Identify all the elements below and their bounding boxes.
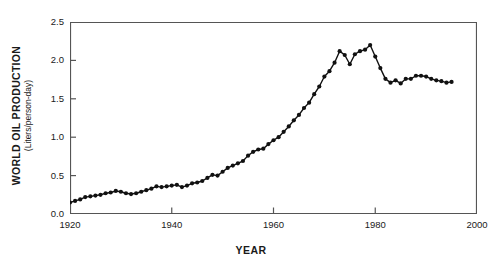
data-point bbox=[287, 124, 291, 128]
data-point bbox=[358, 49, 362, 53]
data-point bbox=[414, 74, 418, 78]
data-point bbox=[149, 187, 153, 191]
data-point bbox=[114, 189, 118, 193]
y-axis-title-main: WORLD OIL PRODUCTION bbox=[11, 45, 23, 184]
data-point bbox=[388, 81, 392, 85]
data-point bbox=[419, 74, 423, 78]
data-point bbox=[165, 184, 169, 188]
data-point bbox=[221, 170, 225, 174]
data-point bbox=[297, 113, 301, 117]
x-axis-tick-label: 2000 bbox=[466, 220, 487, 230]
y-axis-tick-label: 2.0 bbox=[38, 55, 64, 65]
data-point bbox=[205, 176, 209, 180]
data-point bbox=[144, 188, 148, 192]
data-point bbox=[134, 191, 138, 195]
data-point bbox=[312, 92, 316, 96]
x-axis-tick-label: 1960 bbox=[263, 220, 284, 230]
y-axis-tick-label: 0.0 bbox=[38, 209, 64, 219]
data-point bbox=[251, 150, 255, 154]
y-axis-tick-label: 0.5 bbox=[38, 171, 64, 181]
data-point bbox=[261, 147, 265, 151]
chart-figure: WORLD OIL PRODUCTION (Liters/person-day)… bbox=[0, 0, 502, 274]
data-point bbox=[246, 154, 250, 158]
data-point bbox=[170, 183, 174, 187]
data-point bbox=[180, 185, 184, 189]
data-point bbox=[383, 77, 387, 81]
data-point bbox=[394, 78, 398, 82]
data-point bbox=[276, 135, 280, 139]
data-point bbox=[292, 118, 296, 122]
data-plot bbox=[70, 22, 477, 214]
x-axis-tick-labels: 19201940196019802000 bbox=[0, 220, 502, 234]
data-point bbox=[159, 185, 163, 189]
data-point bbox=[429, 77, 433, 81]
data-point bbox=[190, 181, 194, 185]
data-point bbox=[226, 166, 230, 170]
data-point bbox=[98, 193, 102, 197]
data-point bbox=[282, 130, 286, 134]
series-line bbox=[70, 45, 452, 202]
data-point bbox=[129, 192, 133, 196]
data-point bbox=[449, 80, 453, 84]
data-point bbox=[175, 183, 179, 187]
data-point bbox=[343, 53, 347, 57]
data-point bbox=[119, 190, 123, 194]
data-point bbox=[424, 74, 428, 78]
data-point bbox=[332, 61, 336, 65]
data-point bbox=[266, 142, 270, 146]
y-axis-tick-label: 2.5 bbox=[38, 17, 64, 27]
data-point bbox=[154, 184, 158, 188]
x-axis-title: YEAR bbox=[0, 244, 502, 256]
data-point bbox=[409, 77, 413, 81]
data-point bbox=[307, 101, 311, 105]
plot-frame bbox=[71, 23, 477, 214]
data-point bbox=[353, 52, 357, 56]
data-point bbox=[256, 147, 260, 151]
data-point bbox=[104, 191, 108, 195]
y-axis-tick-label: 1.5 bbox=[38, 94, 64, 104]
data-point bbox=[236, 161, 240, 165]
data-point bbox=[70, 200, 72, 204]
plot-area bbox=[70, 22, 477, 214]
data-point bbox=[109, 190, 113, 194]
data-point bbox=[139, 190, 143, 194]
data-point bbox=[215, 174, 219, 178]
data-point bbox=[439, 79, 443, 83]
data-point bbox=[195, 180, 199, 184]
x-axis-tick-label: 1980 bbox=[365, 220, 386, 230]
data-point bbox=[73, 199, 77, 203]
data-point bbox=[88, 194, 92, 198]
data-point bbox=[317, 84, 321, 88]
data-point bbox=[338, 49, 342, 53]
data-point bbox=[124, 191, 128, 195]
data-point bbox=[404, 77, 408, 81]
y-axis-title-units: (Liters/person-day) bbox=[24, 79, 34, 150]
data-point bbox=[348, 62, 352, 66]
data-point bbox=[185, 183, 189, 187]
x-axis-tick-label: 1940 bbox=[161, 220, 182, 230]
data-point bbox=[434, 78, 438, 82]
data-point bbox=[93, 193, 97, 197]
data-point bbox=[327, 69, 331, 73]
data-point bbox=[271, 138, 275, 142]
data-point bbox=[210, 173, 214, 177]
data-point bbox=[378, 66, 382, 70]
data-point bbox=[399, 81, 403, 85]
data-point bbox=[363, 48, 367, 52]
data-point bbox=[83, 195, 87, 199]
data-point bbox=[231, 164, 235, 168]
data-point bbox=[302, 106, 306, 110]
data-point bbox=[322, 74, 326, 78]
data-point bbox=[444, 81, 448, 85]
data-point bbox=[241, 159, 245, 163]
data-point bbox=[78, 197, 82, 201]
data-point bbox=[368, 43, 372, 47]
y-axis-tick-label: 1.0 bbox=[38, 132, 64, 142]
data-point bbox=[373, 54, 377, 58]
x-axis-tick-label: 1920 bbox=[59, 220, 80, 230]
data-point bbox=[200, 179, 204, 183]
